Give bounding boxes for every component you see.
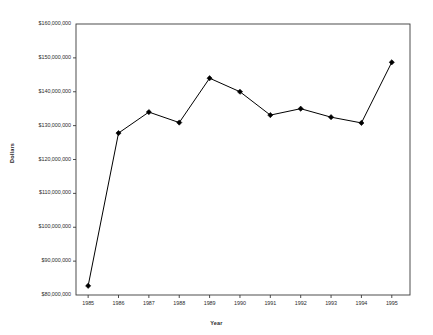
chart-figure: Dollars $160,000,000$150,000,000$140,000… — [0, 0, 433, 335]
data-point-marker — [328, 115, 333, 120]
x-tick-label: 1995 — [372, 300, 412, 306]
data-point-marker — [298, 106, 303, 111]
data-point-marker — [86, 283, 91, 288]
data-point-marker — [359, 120, 364, 125]
x-axis-tick-labels: 1985198619871988198919901991199219931994… — [0, 300, 433, 314]
axis-tick-marks — [73, 58, 392, 298]
x-axis-title: Year — [0, 320, 433, 326]
plot-canvas — [0, 0, 433, 335]
series-line-dollars — [88, 62, 392, 286]
data-point-marker — [389, 60, 394, 65]
series-markers-dollars — [86, 60, 395, 289]
plot-frame — [76, 24, 410, 295]
